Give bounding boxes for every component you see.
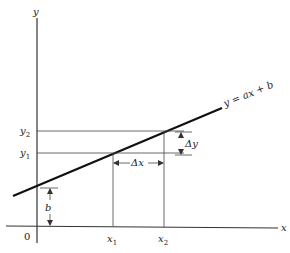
y2-label: y2 (19, 125, 30, 139)
b-label: b (45, 202, 51, 213)
equation-label: y = ax + b (221, 79, 275, 109)
delta-x-label: Δx (130, 157, 144, 168)
x2-label: x2 (158, 233, 168, 247)
linear-function-diagram: y x 0 b y2 y1 x1 x2 Δx Δy y = ax + b (0, 0, 290, 253)
x-axis-label: x (281, 222, 287, 233)
origin-label: 0 (24, 231, 30, 242)
y1-label: y1 (19, 147, 30, 161)
x-axis (6, 226, 278, 228)
y-axis-label: y (32, 6, 39, 17)
x1-label: x1 (107, 233, 117, 247)
function-line (13, 108, 222, 196)
delta-y-label: Δy (184, 138, 198, 149)
